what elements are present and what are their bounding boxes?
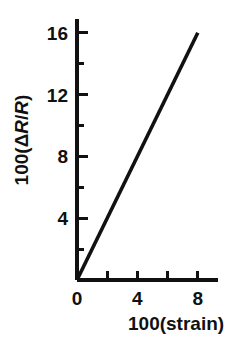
x-axis-title: 100(strain) [128, 313, 224, 335]
y-axis-title-text: 100(ΔR/R) [11, 95, 32, 186]
y-title-r-denominator: R [11, 101, 32, 115]
x-tick-label: 0 [72, 289, 83, 308]
x-tick-label: 8 [193, 289, 204, 308]
y-tick-label: 12 [47, 85, 68, 104]
y-tick-label: 16 [47, 23, 68, 42]
axes-group [77, 19, 218, 280]
data-series-group [77, 33, 198, 280]
y-tick-label: 8 [57, 147, 68, 166]
y-title-r-numerator: R [11, 120, 32, 134]
y-tick-label: 4 [57, 209, 68, 228]
data-line [77, 33, 198, 280]
chart-figure: 161284 048 100(ΔR/R) 100(strain) [0, 0, 250, 349]
x-tick-label: 4 [132, 289, 143, 308]
delta-icon: Δ [11, 134, 32, 148]
y-title-slash: / [11, 115, 32, 120]
y-axis-title: 100(ΔR/R) [6, 30, 38, 250]
y-title-prefix: 100( [11, 147, 32, 185]
y-title-suffix: ) [11, 95, 32, 101]
